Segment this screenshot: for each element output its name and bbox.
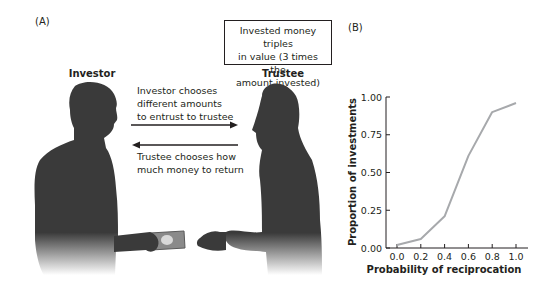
svg-text:0.8: 0.8 (485, 251, 500, 262)
svg-text:0.0: 0.0 (389, 251, 404, 262)
y-axis-label: Proportion of investments (347, 98, 358, 246)
chart-series-line (397, 103, 516, 245)
svg-text:0.6: 0.6 (461, 251, 476, 262)
chart-axes (386, 97, 528, 248)
svg-text:0.00: 0.00 (361, 243, 382, 254)
svg-text:0.75: 0.75 (361, 129, 382, 140)
svg-text:0.25: 0.25 (361, 205, 382, 216)
svg-text:1.0: 1.0 (508, 251, 523, 262)
svg-text:0.4: 0.4 (437, 251, 452, 262)
chart-tick-labels: 0.000.250.500.751.000.00.20.40.60.81.0 (361, 92, 524, 263)
svg-text:0.2: 0.2 (413, 251, 428, 262)
x-axis-label: Probability of reciprocation (367, 264, 522, 275)
svg-text:1.00: 1.00 (361, 92, 382, 103)
svg-text:0.50: 0.50 (361, 167, 382, 178)
reciprocation-chart: 0.000.250.500.751.000.00.20.40.60.81.0 P… (0, 0, 551, 299)
